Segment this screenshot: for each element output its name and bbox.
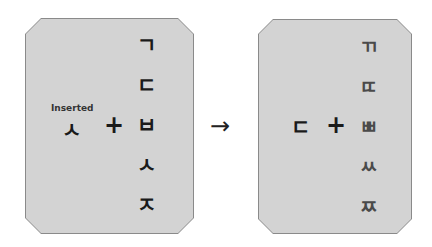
column-jamo-5: ㅈ <box>137 195 156 216</box>
right-arrow-icon: → <box>210 114 230 138</box>
double-jamo-3: ㅃ <box>360 118 377 137</box>
inserted-jamo: ㅅ <box>62 120 81 141</box>
column-jamo-3: ㅂ <box>137 115 156 136</box>
column-jamo-2: ㄷ <box>137 75 156 96</box>
column-jamo-1: ㄱ <box>137 35 156 56</box>
double-jamo-4: ㅆ <box>360 158 377 177</box>
plus-operator-right: + <box>326 113 346 137</box>
inserted-label: Inserted <box>51 104 94 113</box>
double-jamo-5: ㅉ <box>360 198 377 217</box>
column-jamo-4: ㅅ <box>137 155 156 176</box>
result-jamo: ㄷ <box>291 117 310 138</box>
double-jamo-1: ㄲ <box>360 38 377 57</box>
double-jamo-2: ㄸ <box>360 78 377 97</box>
plus-operator: + <box>104 113 124 137</box>
